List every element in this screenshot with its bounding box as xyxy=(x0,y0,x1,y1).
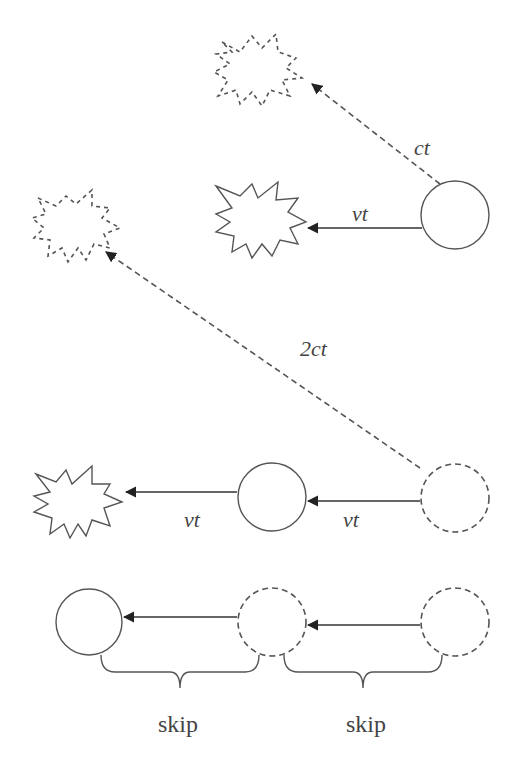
label-vt-row3-right: vt xyxy=(343,507,360,532)
dashed-starburst-mid xyxy=(32,190,120,262)
label-skip-right: skip xyxy=(346,711,386,737)
brace-right xyxy=(284,655,442,688)
source-circle-row4 xyxy=(56,589,122,655)
dashed-starburst-top xyxy=(214,34,302,106)
brace-left xyxy=(101,655,259,688)
label-vt-row3-left: vt xyxy=(184,507,201,532)
diagram-canvas: ct vt 2ct vt vt skip skip xyxy=(0,0,520,778)
label-ct: ct xyxy=(414,135,431,160)
dashed-circle-row4-right xyxy=(421,588,489,656)
source-circle-top xyxy=(421,181,489,249)
solid-starburst-top xyxy=(216,182,306,258)
two-ct-dashed-arrow xyxy=(106,252,420,468)
label-vt-top: vt xyxy=(352,201,369,226)
label-skip-left: skip xyxy=(158,711,198,737)
label-2ct: 2ct xyxy=(300,336,328,361)
dashed-circle-row3 xyxy=(421,464,489,532)
source-circle-row3 xyxy=(238,463,306,531)
solid-starburst-row3 xyxy=(34,466,122,538)
ct-dashed-arrow xyxy=(312,84,440,184)
dashed-circle-row4-mid xyxy=(238,588,306,656)
